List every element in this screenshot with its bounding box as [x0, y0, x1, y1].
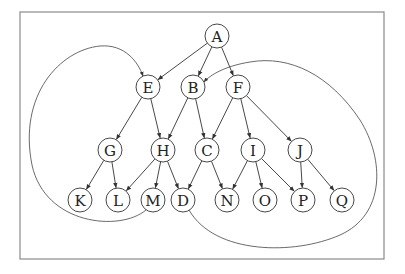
node-label: C: [201, 142, 212, 160]
node-q: Q: [330, 188, 354, 212]
graph-diagram: AEBFGHCIJKLMDNOPQ: [0, 0, 405, 274]
node-c: C: [195, 138, 219, 162]
node-n: N: [215, 188, 239, 212]
node-e: E: [136, 75, 160, 99]
node-label: N: [220, 192, 233, 210]
node-label: G: [104, 142, 116, 160]
node-b: B: [181, 75, 205, 99]
node-i: I: [241, 138, 265, 162]
node-o: O: [253, 188, 277, 212]
node-j: J: [288, 138, 312, 162]
node-d: D: [171, 188, 195, 212]
node-label: A: [211, 28, 223, 46]
node-m: M: [141, 188, 165, 212]
node-label: H: [156, 142, 169, 160]
node-label: B: [187, 79, 198, 97]
node-label: Q: [336, 192, 348, 210]
node-f: F: [226, 75, 250, 99]
node-label: E: [143, 79, 154, 97]
node-label: K: [74, 192, 86, 210]
node-p: P: [291, 188, 315, 212]
node-g: G: [98, 138, 122, 162]
node-label: D: [177, 192, 189, 210]
diagram-frame: [20, 12, 384, 259]
node-label: P: [298, 192, 308, 210]
node-a: A: [205, 24, 229, 48]
node-k: K: [68, 188, 92, 212]
node-l: L: [106, 188, 130, 212]
node-label: O: [259, 192, 271, 210]
node-label: I: [250, 142, 256, 160]
node-h: H: [151, 138, 175, 162]
node-label: L: [113, 192, 123, 210]
node-label: F: [233, 79, 243, 97]
node-label: J: [295, 142, 303, 160]
node-label: M: [145, 192, 160, 210]
